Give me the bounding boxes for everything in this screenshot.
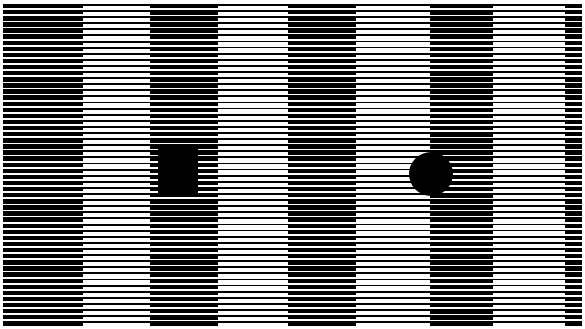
illusion-plate-canvas [0,0,585,329]
band-9-dark [565,4,582,327]
band-4-light [218,4,288,327]
black-circle [409,152,453,196]
band-1-dark [3,4,83,327]
band-2-light [83,4,150,327]
band-5-dark [288,4,356,327]
band-8-light [493,4,565,327]
stripe-field [3,4,582,327]
black-square [158,147,198,196]
